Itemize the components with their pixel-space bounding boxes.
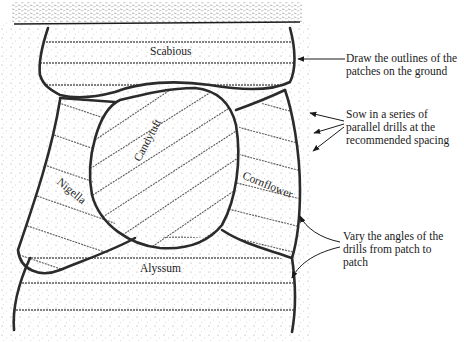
topsoil-band bbox=[12, 2, 302, 22]
patch-label-scabious: Scabious bbox=[150, 46, 192, 58]
drill-arrow-3 bbox=[313, 127, 344, 151]
sowing-diagram: Scabious Candytuft Nigella Cornflower Al… bbox=[0, 0, 464, 342]
annotation-angles: Vary the angles of the drills from patch… bbox=[343, 230, 443, 269]
drill-arrow-2 bbox=[314, 124, 344, 133]
annotation-outlines: Draw the outlines of the patches on the … bbox=[346, 52, 457, 78]
drill-arrow-1 bbox=[310, 113, 344, 121]
patch-label-alyssum: Alyssum bbox=[140, 263, 181, 275]
annotation-drills: Sow in a series of parallel drills at th… bbox=[346, 108, 449, 147]
